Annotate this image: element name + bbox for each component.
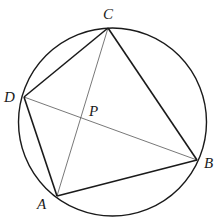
label-c: C xyxy=(103,6,114,22)
diagonal-bd xyxy=(24,97,197,160)
circumcircle xyxy=(19,28,207,216)
side-bc xyxy=(108,28,197,160)
side-cd xyxy=(24,28,108,97)
side-da xyxy=(24,97,57,196)
label-a: A xyxy=(36,196,47,212)
label-d: D xyxy=(3,89,15,105)
cyclic-quadrilateral-diagram: A B C D P xyxy=(0,0,221,217)
label-b: B xyxy=(204,155,213,171)
label-p: P xyxy=(88,103,98,119)
